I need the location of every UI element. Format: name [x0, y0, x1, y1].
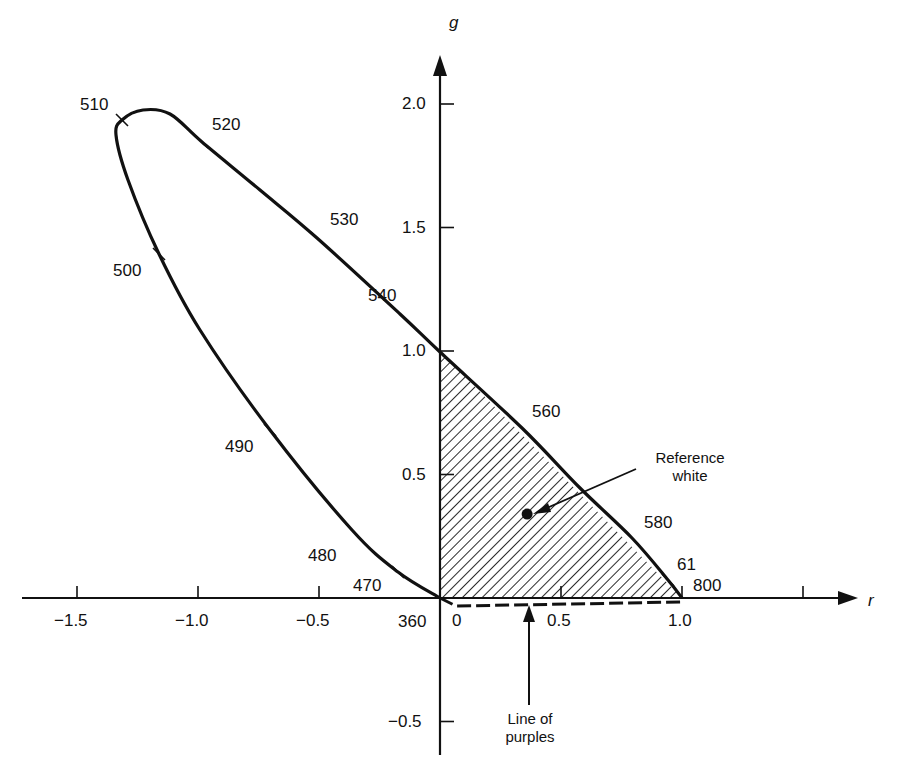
wavelength-label-540: 540 — [368, 287, 396, 304]
y-tick-label: 1.5 — [402, 219, 426, 236]
y-axis-arrow-icon — [433, 55, 447, 76]
wavelength-label-560: 560 — [532, 403, 560, 420]
wavelength-tick — [626, 532, 638, 544]
wavelength-label-470: 470 — [353, 577, 381, 594]
purples-arrow-icon — [523, 605, 535, 622]
wavelength-label-520: 520 — [212, 116, 240, 133]
wavelength-label-530: 530 — [330, 211, 358, 228]
wavelength-label-510: 510 — [80, 96, 108, 113]
x-tick-label: −1.0 — [175, 612, 209, 629]
x-tick-label: −0.5 — [296, 612, 330, 629]
plot-area — [22, 55, 858, 755]
wavelength-tick — [153, 248, 165, 260]
wavelength-label-360: 360 — [398, 613, 426, 630]
wavelength-tick — [394, 308, 406, 320]
wavelength-label-800: 800 — [693, 577, 721, 594]
wavelength-tick — [392, 566, 404, 578]
chromaticity-diagram — [0, 0, 900, 779]
wavelength-tick — [196, 136, 208, 148]
reference-white-line1: Reference — [640, 449, 740, 467]
y-tick-label: 0.5 — [402, 466, 426, 483]
y-tick-label: 1.0 — [402, 342, 426, 359]
x-axis-name: r — [868, 592, 874, 609]
wavelength-label-490: 490 — [225, 438, 253, 455]
origin-label: 0 — [452, 612, 461, 629]
wavelength-label-580: 580 — [644, 514, 672, 531]
reference-white-label: Reference white — [640, 449, 740, 485]
line-of-purples — [440, 598, 682, 606]
purples-line1: Line of — [480, 710, 580, 728]
reference-white-point — [522, 509, 533, 520]
reference-white-line2: white — [640, 467, 740, 485]
wavelength-label-500: 500 — [113, 262, 141, 279]
wavelength-label-61: 61 — [677, 556, 696, 573]
wavelength-tick — [264, 424, 276, 436]
y-tick-label: 2.0 — [402, 95, 426, 112]
wavelength-tick — [346, 524, 358, 536]
line-of-purples-label: Line of purples — [480, 710, 580, 746]
y-tick-label: −0.5 — [388, 713, 422, 730]
wavelength-label-480: 480 — [308, 547, 336, 564]
x-tick-label: 1.0 — [668, 612, 692, 629]
x-tick-label: 0.5 — [547, 612, 571, 629]
wavelength-tick — [311, 232, 323, 244]
x-tick-label: −1.5 — [54, 612, 88, 629]
x-axis-arrow-icon — [838, 591, 858, 605]
y-axis-name: g — [449, 14, 458, 31]
purples-line2: purples — [480, 728, 580, 746]
